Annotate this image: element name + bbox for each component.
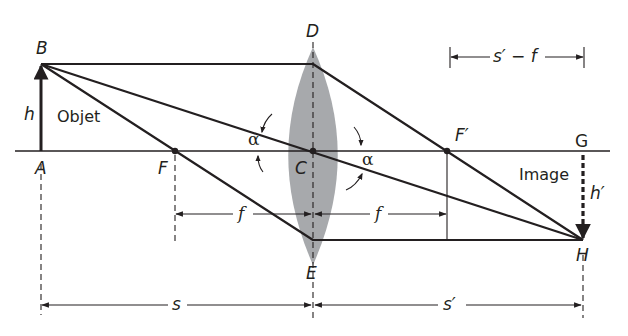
label-point-H: H <box>576 247 589 264</box>
angle-arc-lower-left <box>258 156 263 172</box>
label-object: Objet <box>57 109 100 125</box>
label-point-G: G <box>575 133 588 150</box>
label-dim-f-right: f <box>375 205 381 222</box>
label-dim-s-prime-minus-f: s′ − f <box>493 48 537 65</box>
label-dim-s-prime: s′ <box>443 296 456 313</box>
label-point-E: E <box>306 265 317 282</box>
lens-center-C <box>310 148 316 154</box>
angle-arc-upper-left <box>262 114 272 132</box>
label-image: Image <box>519 167 569 183</box>
angle-arc-lower-right <box>346 174 362 190</box>
label-point-A: A <box>35 160 47 177</box>
label-image-height: h′ <box>590 185 605 202</box>
label-point-F: F <box>158 160 168 177</box>
label-angle-alpha-right: α <box>362 151 373 168</box>
label-angle-alpha-left: α <box>248 131 259 148</box>
label-point-D: D <box>306 23 319 40</box>
label-object-height: h <box>24 106 35 123</box>
angle-arc-upper-right <box>354 127 361 145</box>
label-dim-s: s <box>172 296 181 313</box>
label-point-F-prime: F′ <box>455 127 469 144</box>
focal-point-F <box>172 148 178 154</box>
label-point-B: B <box>36 40 48 57</box>
focal-point-F-prime <box>444 148 450 154</box>
label-point-C: C <box>295 160 307 177</box>
label-dim-f-left: f <box>238 205 244 222</box>
